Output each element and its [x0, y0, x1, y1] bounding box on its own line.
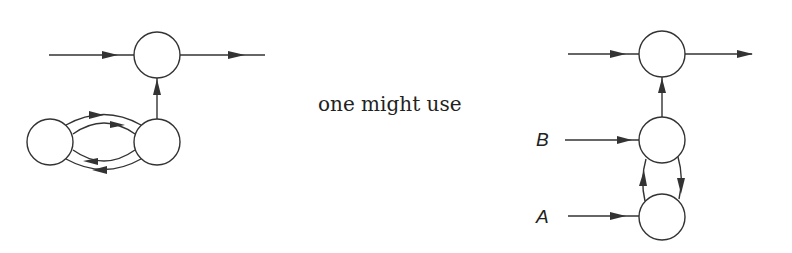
left-diagram — [27, 32, 265, 174]
label-a: A — [536, 206, 549, 228]
diagram-canvas — [0, 0, 792, 253]
right-top-node — [639, 31, 685, 77]
label-b: B — [536, 129, 549, 151]
left-lower-left-node — [27, 119, 73, 165]
left-top-node — [134, 32, 180, 78]
left-lower-right-node — [134, 119, 180, 165]
caption-text: one might use — [318, 92, 462, 116]
right-bottom-node — [639, 194, 685, 240]
right-middle-node — [639, 117, 685, 163]
right-diagram — [565, 31, 753, 240]
left-arc-inner-lower — [73, 150, 135, 161]
left-arc-inner-upper — [73, 123, 135, 134]
